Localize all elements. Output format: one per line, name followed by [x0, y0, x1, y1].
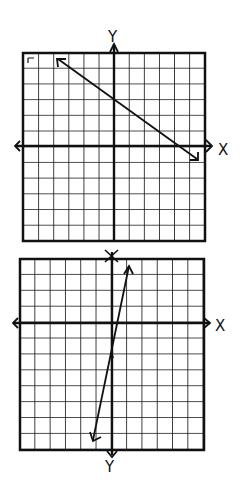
top-y-label: Y	[107, 28, 118, 46]
bottom-y-label: Y	[104, 458, 115, 476]
worksheet-graphs: X Y X Y	[0, 0, 244, 495]
y-intercept-point	[110, 355, 114, 359]
top-coordinate-grid: X Y	[15, 28, 228, 241]
top-x-label: X	[218, 141, 228, 159]
bottom-x-label: X	[215, 317, 225, 335]
bottom-coordinate-grid: X Y	[13, 250, 225, 476]
